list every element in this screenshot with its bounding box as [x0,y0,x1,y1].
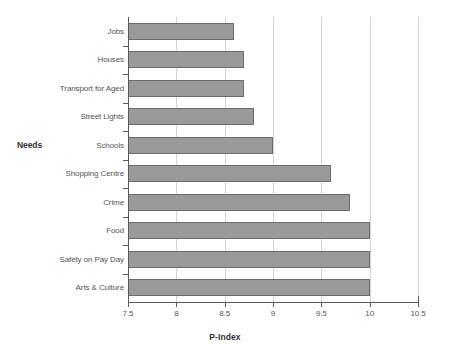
y-axis-tick [123,217,128,218]
x-axis-tick-label: 8.5 [210,309,240,319]
bar-row [128,108,418,125]
x-axis-tick-label: 9.5 [306,309,336,319]
x-axis-tick-label: 8 [161,309,191,319]
bar [128,108,254,125]
x-axis-tick [128,302,129,307]
x-axis-tick-label: 9 [258,309,288,319]
x-axis-tick-label: 10 [355,309,385,319]
bar-row [128,51,418,68]
x-axis-tick [225,302,226,307]
y-axis-tick [123,274,128,275]
y-axis-tick [123,245,128,246]
x-axis-title: P-Index [0,332,450,342]
bar-row [128,80,418,97]
bar [128,279,370,296]
y-axis-tick [123,103,128,104]
bar-row [128,23,418,40]
x-axis-tick [370,302,371,307]
bar [128,51,244,68]
y-axis-tick [123,74,128,75]
y-axis-tick-labels: JobsHousesTransport for AgedStreet Light… [20,17,124,302]
y-axis-tick [123,188,128,189]
y-axis-tick-label: Schools [20,141,124,150]
y-axis-line [128,17,129,303]
bar [128,222,370,239]
bar-chart: Needs JobsHousesTransport for AgedStreet… [0,0,450,362]
x-axis-tick [176,302,177,307]
x-axis-tick [418,302,419,307]
bar [128,251,370,268]
bar-row [128,251,418,268]
bar [128,165,331,182]
y-axis-tick-label: Street Lights [20,112,124,121]
bar-row [128,222,418,239]
y-axis-tick-label: Safety on Pay Day [20,255,124,264]
plot-area [128,17,418,302]
gridline [418,17,419,302]
x-axis-tick [321,302,322,307]
y-axis-tick [123,46,128,47]
bar-row [128,279,418,296]
bar-row [128,165,418,182]
y-axis-tick-label: Houses [20,55,124,64]
bar [128,80,244,97]
bar [128,137,273,154]
x-axis-tick [273,302,274,307]
bar-row [128,194,418,211]
y-axis-tick-label: Crime [20,198,124,207]
bar [128,194,350,211]
bar-row [128,137,418,154]
y-axis-tick [123,160,128,161]
x-axis-tick-label: 7.5 [113,309,143,319]
bar [128,23,234,40]
y-axis-tick-label: Food [20,226,124,235]
y-axis-tick-label: Jobs [20,27,124,36]
x-axis-tick-label: 10.5 [403,309,433,319]
y-axis-tick-label: Arts & Culture [20,283,124,292]
y-axis-tick-label: Transport for Aged [20,84,124,93]
y-axis-tick [123,131,128,132]
y-axis-tick-label: Shopping Centre [20,169,124,178]
